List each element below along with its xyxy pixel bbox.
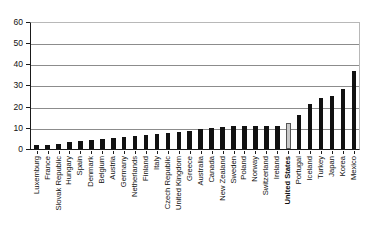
x-tick-label: Italy — [153, 156, 161, 170]
x-tick-label: United States — [284, 156, 292, 205]
y-tick-label: 20 — [14, 102, 23, 111]
x-tick-label: Switzerland — [263, 156, 271, 195]
y-tick-label: 10 — [14, 123, 23, 132]
x-tick-mark — [332, 151, 333, 154]
x-tick-slot: Iceland — [305, 151, 316, 246]
x-tick-label: Greece — [186, 156, 194, 181]
x-tick-mark — [59, 151, 60, 154]
bar-slot — [75, 22, 86, 149]
x-tick-slot: Norway — [250, 151, 261, 246]
x-tick-mark — [299, 151, 300, 154]
x-tick-mark — [255, 151, 256, 154]
x-tick-slot: Spain — [75, 151, 86, 246]
x-tick-slot: Turkey — [316, 151, 327, 246]
bar-slot — [141, 22, 152, 149]
x-tick-mark — [124, 151, 125, 154]
x-tick-slot: Australia — [195, 151, 206, 246]
x-tick-label: Slovak Republic — [55, 156, 63, 210]
x-tick-label: Ireland — [273, 156, 281, 179]
x-tick-label: Finland — [142, 156, 150, 181]
x-tick-mark — [321, 151, 322, 154]
bar-slot — [327, 22, 338, 149]
x-tick-mark — [223, 151, 224, 154]
bar — [34, 145, 39, 149]
x-tick-slot: Korea — [337, 151, 348, 246]
x-tick-mark — [80, 151, 81, 154]
bar-slot — [31, 22, 42, 149]
x-tick-label: Mexico — [350, 156, 358, 180]
bar-slot — [261, 22, 272, 149]
bar — [231, 126, 236, 149]
bar — [220, 127, 225, 149]
bar — [330, 96, 335, 149]
x-tick-slot: Ireland — [272, 151, 283, 246]
x-tick-slot: Hungary — [64, 151, 75, 246]
x-tick-label: Germany — [120, 156, 128, 187]
x-tick-slot: United States — [283, 151, 294, 246]
x-tick-slot: Austria — [108, 151, 119, 246]
x-tick-mark — [102, 151, 103, 154]
x-tick-mark — [135, 151, 136, 154]
bar-slot — [97, 22, 108, 149]
x-tick-slot: New Zealand — [217, 151, 228, 246]
x-tick-mark — [212, 151, 213, 154]
bar — [100, 139, 105, 149]
bar — [122, 137, 127, 149]
x-tick-label: Australia — [197, 156, 205, 186]
x-tick-label: Czech Republic — [164, 156, 172, 209]
x-tick-label: Japan — [328, 156, 336, 177]
bar-slot — [316, 22, 327, 149]
x-tick-label: Luxemburg — [33, 156, 41, 194]
x-tick-mark — [234, 151, 235, 154]
x-tick-slot: Denmark — [86, 151, 97, 246]
x-tick-slot: Belgium — [97, 151, 108, 246]
bar — [89, 140, 94, 148]
x-tick-mark — [190, 151, 191, 154]
y-tick-label: 50 — [14, 39, 23, 48]
bar — [45, 145, 50, 149]
bar-slot — [86, 22, 97, 149]
x-tick-slot: Italy — [152, 151, 163, 246]
bar — [67, 142, 72, 148]
bar — [308, 104, 313, 148]
bar — [352, 71, 357, 149]
bar-slot — [108, 22, 119, 149]
x-tick-slot: France — [42, 151, 53, 246]
bar — [166, 133, 171, 149]
x-axis: LuxemburgFranceSlovak RepublicHungarySpa… — [31, 151, 359, 246]
bar — [341, 89, 346, 149]
bar — [275, 126, 280, 149]
bar-slot — [152, 22, 163, 149]
x-tick-slot: Japan — [327, 151, 338, 246]
x-tick-mark — [48, 151, 49, 154]
x-tick-label: Austria — [109, 156, 117, 180]
bar-slot — [228, 22, 239, 149]
x-tick-mark — [354, 151, 355, 154]
x-tick-mark — [37, 151, 38, 154]
x-tick-slot: Czech Republic — [162, 151, 173, 246]
x-tick-label: Denmark — [88, 156, 96, 187]
x-tick-slot: Finland — [141, 151, 152, 246]
x-tick-label: Poland — [241, 156, 249, 180]
x-tick-slot: Poland — [239, 151, 250, 246]
x-tick-label: Spain — [77, 156, 85, 175]
bar-slot — [239, 22, 250, 149]
x-tick-mark — [288, 151, 289, 154]
bars-container — [31, 22, 359, 149]
bar-slot — [119, 22, 130, 149]
x-tick-slot: Switzerland — [261, 151, 272, 246]
bar-slot — [173, 22, 184, 149]
x-tick-label: Iceland — [306, 156, 314, 181]
bar-slot — [250, 22, 261, 149]
bar-slot — [195, 22, 206, 149]
x-tick-mark — [113, 151, 114, 154]
bar — [242, 126, 247, 149]
x-tick-slot: Greece — [184, 151, 195, 246]
x-tick-mark — [179, 151, 180, 154]
bar-slot — [283, 22, 294, 149]
x-tick-slot: Canada — [206, 151, 217, 246]
x-tick-mark — [266, 151, 267, 154]
x-tick-label: Canada — [208, 156, 216, 183]
x-tick-slot: Germany — [119, 151, 130, 246]
x-tick-mark — [168, 151, 169, 154]
